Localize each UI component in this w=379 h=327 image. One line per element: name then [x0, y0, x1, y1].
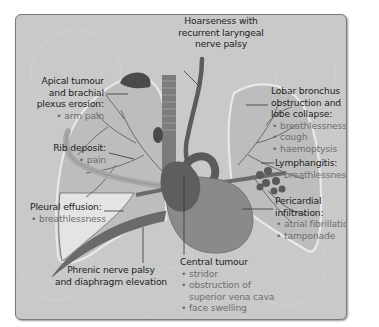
label-heading: obstruction and — [271, 97, 347, 109]
label-heading: nerve palsy — [166, 38, 276, 50]
label-bullet: atrial fibrillation — [275, 218, 347, 230]
label-bullet: pain — [78, 154, 106, 166]
label-bullet: haemoptysis — [271, 143, 347, 155]
label-phrenic-nerve: Phrenic nerve palsy and diaphragm elevat… — [46, 264, 176, 287]
label-bullet: arm pain — [55, 110, 104, 122]
label-bullet: breathlessness — [30, 213, 120, 225]
diagram-panel: Hoarseness with recurrent laryngeal nerv… — [15, 14, 347, 320]
label-bullet: breathlessness — [271, 120, 347, 132]
label-heading: plexus erosion: — [16, 98, 104, 110]
bullet-line: obstruction of — [189, 279, 251, 290]
label-bullet: tamponade — [275, 230, 347, 242]
label-bullet: cough — [271, 131, 347, 143]
label-apical-tumour: Apical tumour and brachial plexus erosio… — [16, 75, 104, 121]
label-hoarseness: Hoarseness with recurrent laryngeal nerv… — [166, 15, 276, 50]
mediastinal-node — [153, 127, 163, 143]
label-lobar-bronchus: Lobar bronchus obstruction and lobe coll… — [271, 85, 347, 155]
label-bullet: breathlessness — [275, 169, 347, 181]
label-bullet: obstruction ofsuperior vena cava — [180, 279, 290, 302]
label-pleural-effusion: Pleural effusion: breathlessness — [30, 201, 120, 224]
label-heading: and diaphragm elevation — [46, 276, 176, 288]
label-lymphangitis: Lymphangitis: breathlessness — [275, 157, 347, 180]
label-heading: Phrenic nerve palsy — [46, 264, 176, 276]
label-heading: Lymphangitis: — [275, 157, 347, 169]
label-bullet: stridor — [180, 268, 290, 280]
label-pericardial-infiltration: Pericardial infiltration: atrial fibrill… — [275, 195, 347, 241]
label-heading: Hoarseness with — [166, 15, 276, 27]
label-heading: and brachial — [16, 87, 104, 99]
label-heading: Central tumour — [180, 256, 290, 268]
label-heading: Pericardial — [275, 195, 347, 207]
label-central-tumour: Central tumour stridor obstruction ofsup… — [180, 256, 290, 314]
label-bullet: face swelling — [180, 302, 290, 314]
label-heading: recurrent laryngeal — [166, 27, 276, 39]
bullet-line: superior vena cava — [189, 291, 274, 302]
label-heading: lobe collapse: — [271, 108, 347, 120]
trachea — [162, 75, 176, 175]
label-heading: Apical tumour — [16, 75, 104, 87]
label-heading: Lobar bronchus — [271, 85, 347, 97]
label-heading: infiltration: — [275, 207, 347, 219]
label-heading: Rib deposit: — [16, 142, 106, 154]
label-rib-deposit: Rib deposit: pain — [16, 142, 106, 165]
label-heading: Pleural effusion: — [30, 201, 120, 213]
